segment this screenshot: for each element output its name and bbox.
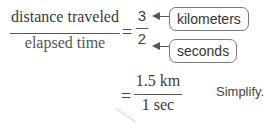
equals-sign: = [122, 22, 132, 43]
simplified-fraction-bar [134, 94, 182, 95]
kilometers-label: kilometers [169, 7, 249, 31]
seconds-label: seconds [169, 39, 237, 63]
fraction-numerator: distance traveled [10, 8, 120, 26]
fraction-denominator: elapsed time [10, 34, 120, 52]
value-numerator: 3 [136, 7, 148, 24]
value-denominator: 2 [136, 30, 148, 47]
simplify-note: Simplify. [216, 84, 264, 99]
equals-sign-2: = [121, 86, 131, 107]
diagonal-mark [116, 108, 136, 123]
simplified-denominator: 1 sec [134, 96, 182, 114]
simplified-numerator: 1.5 km [134, 72, 182, 90]
value-fraction-bar [136, 28, 148, 29]
